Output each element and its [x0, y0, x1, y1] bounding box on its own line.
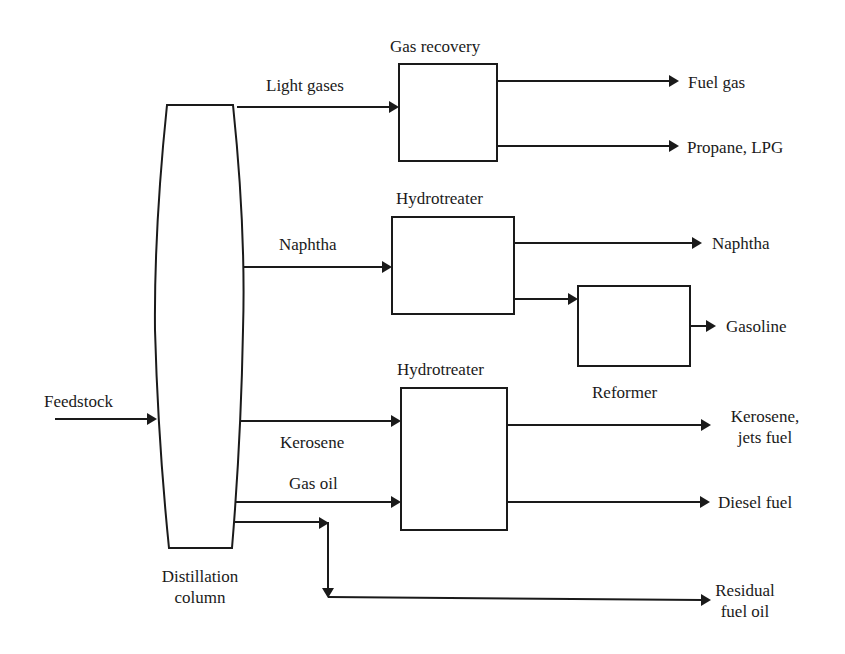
diesel-fuel-label: Diesel fuel [718, 492, 792, 513]
kerosene-in-label: Kerosene [280, 432, 344, 453]
diesel-arrow [507, 496, 710, 508]
naphtha-in-label: Naphtha [279, 234, 337, 255]
process-flow-diagram [0, 0, 845, 654]
reformer-label: Reformer [592, 382, 657, 403]
light-gases-arrow [237, 101, 399, 113]
hydrotreater-2-box [401, 388, 507, 530]
distillation-column-label-line1: Distillation [140, 566, 260, 587]
residual-fuel-oil-line2: fuel oil [705, 601, 785, 622]
reformer-box [578, 286, 690, 366]
gas-oil-label: Gas oil [289, 473, 338, 494]
residual-fuel-oil-line1: Residual [705, 580, 785, 601]
gas-recovery-label: Gas recovery [390, 36, 480, 57]
naphtha-out-arrow [514, 237, 702, 249]
hydrotreater-1-label: Hydrotreater [396, 188, 483, 209]
distillation-column-shape [155, 105, 244, 548]
distillation-column-label-line2: column [140, 587, 260, 608]
fuel-gas-label: Fuel gas [688, 72, 745, 93]
propane-arrow [497, 140, 679, 152]
fuel-gas-arrow [497, 75, 679, 87]
gasoline-arrow [690, 320, 716, 332]
kerosene-out-arrow [507, 419, 711, 431]
to-reformer-arrow [514, 293, 578, 305]
feedstock-arrow [55, 413, 157, 425]
naphtha-in-arrow [244, 261, 392, 273]
kerosene-in-arrow [240, 415, 401, 427]
propane-lpg-label: Propane, LPG [687, 137, 783, 158]
hydrotreater-2-label: Hydrotreater [397, 359, 484, 380]
residual-fuel-oil-label: Residual fuel oil [705, 580, 785, 622]
kerosene-jet-fuel-line2: jets fuel [715, 427, 815, 448]
naphtha-product-label: Naphtha [712, 233, 770, 254]
gas-recovery-box [399, 64, 497, 161]
distillation-column-label: Distillation column [140, 566, 260, 608]
gas-oil-arrow [236, 496, 401, 508]
gasoline-label: Gasoline [726, 316, 786, 337]
light-gases-label: Light gases [266, 75, 344, 96]
kerosene-jet-fuel-label: Kerosene, jets fuel [715, 406, 815, 448]
kerosene-jet-fuel-line1: Kerosene, [715, 406, 815, 427]
hydrotreater-1-box [392, 217, 514, 314]
feedstock-label: Feedstock [44, 391, 113, 412]
